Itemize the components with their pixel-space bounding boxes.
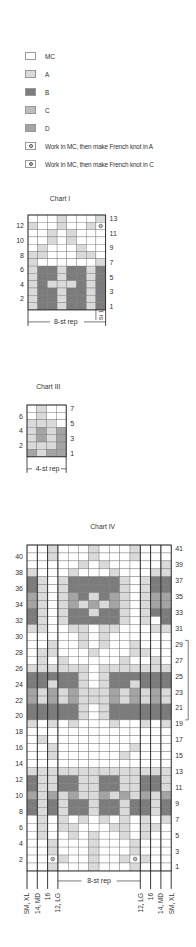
chart-cell: [109, 863, 119, 871]
chart-cell: [130, 664, 140, 672]
chart-cell: [99, 609, 109, 617]
chart-cell: [27, 442, 37, 449]
chart-cell: [58, 784, 68, 792]
chart-cell: [47, 273, 57, 280]
chart-cell: [48, 672, 58, 680]
chart-cell: [48, 688, 58, 696]
chart-cell: [37, 435, 47, 442]
chart-cell: [130, 601, 140, 609]
chart-cell: [68, 704, 78, 712]
chart-cell: [57, 215, 67, 222]
chart-cell: [37, 569, 47, 577]
row-number-left: 6: [19, 824, 23, 831]
chart-cell: [130, 784, 140, 792]
row-number-left: 28: [15, 649, 23, 656]
row-number-right: 37: [175, 577, 183, 584]
row-number-left: 26: [15, 665, 23, 672]
row-number-left: 40: [15, 553, 23, 560]
chart-cell: [37, 648, 47, 656]
row-number-left: 10: [15, 792, 23, 799]
chart-cell: [79, 768, 89, 776]
chart-cell: [38, 215, 48, 222]
chart-cell: [161, 561, 171, 569]
size-label-left: SM, XL: [24, 893, 31, 915]
chart-cell: [99, 863, 109, 871]
chart-cell: [86, 230, 96, 237]
chart-cell: [99, 791, 109, 799]
chart-cell: [89, 847, 99, 855]
chart-cell: [27, 736, 37, 744]
chart-cell: [28, 303, 38, 310]
chart-cell: [37, 704, 47, 712]
french-knot-icon: [133, 857, 137, 861]
chart-cell: [68, 847, 78, 855]
chart-cell: [140, 632, 150, 640]
chart-cell: [99, 736, 109, 744]
chart-cell: [151, 799, 161, 807]
chart-cell: [140, 855, 150, 863]
chart-cell: [67, 230, 77, 237]
chart-cell: [38, 273, 48, 280]
chart-cell: [109, 664, 119, 672]
chart-cell: [48, 807, 58, 815]
row-number-left: 12: [16, 222, 24, 229]
chart-cell: [89, 855, 99, 863]
chart-cell: [140, 569, 150, 577]
chart-cell: [99, 569, 109, 577]
row-number-right: 5: [175, 832, 179, 839]
chart-cell: [28, 288, 38, 295]
chart-cell: [79, 585, 89, 593]
chart-cell: [48, 545, 58, 553]
chart-cell: [37, 553, 47, 561]
chart-cell: [161, 712, 171, 720]
chart-cell: [47, 215, 57, 222]
chart-cell: [68, 752, 78, 760]
chart-cell: [109, 553, 119, 561]
chart-cell: [99, 601, 109, 609]
chart-cell: [120, 720, 130, 728]
chart-cell: [109, 569, 119, 577]
chart-cell: [37, 720, 47, 728]
chart-cell: [109, 561, 119, 569]
row-number-right: 41: [175, 545, 183, 552]
chart-cell: [161, 736, 171, 744]
chart-cell: [27, 831, 37, 839]
chart-cell: [99, 720, 109, 728]
chart-cell: [151, 672, 161, 680]
chart-cell: [67, 281, 77, 288]
chart-cell: [161, 760, 171, 768]
row-number-right: 5: [70, 420, 74, 427]
chart-cell: [109, 545, 119, 553]
size-label-right: SM, XL: [168, 893, 175, 915]
chart-cell: [109, 776, 119, 784]
chart-cell: [77, 273, 87, 280]
chart-cell: [58, 815, 68, 823]
chart-cell: [58, 791, 68, 799]
row-number-left: 2: [19, 856, 23, 863]
chart-cell: [161, 807, 171, 815]
chart-cell: [68, 831, 78, 839]
chart-cell: [89, 545, 99, 553]
chart-cell: [28, 266, 38, 273]
chart-cell: [109, 768, 119, 776]
chart-cell: [47, 252, 57, 259]
chart-cell: [109, 601, 119, 609]
chart-cell: [151, 680, 161, 688]
chart-cell: [37, 799, 47, 807]
chart-cell: [27, 435, 37, 442]
chart-cell: [140, 625, 150, 633]
chart-cell: [109, 752, 119, 760]
chart-cell: [161, 609, 171, 617]
chart-cell: [48, 561, 58, 569]
chart-cell: [161, 799, 171, 807]
chart-cell: [68, 640, 78, 648]
chart-cell: [130, 815, 140, 823]
chart-cell: [161, 696, 171, 704]
chart-cell: [79, 609, 89, 617]
chart-cell: [27, 855, 37, 863]
row-number-right: 11: [110, 230, 117, 237]
chart-cell: [161, 625, 171, 633]
chart-cell: [58, 664, 68, 672]
chart-cell: [161, 744, 171, 752]
chart-cell: [89, 609, 99, 617]
